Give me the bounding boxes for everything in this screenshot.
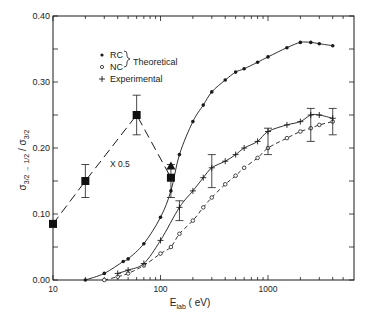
dot-marker [178, 153, 182, 157]
data-series [49, 41, 337, 282]
y-tick-label: 0.30 [32, 77, 50, 87]
dot-marker [299, 41, 303, 45]
legend: RCNCExperimentalTheoretical [99, 50, 178, 84]
series-open-circle [102, 120, 334, 282]
chart: 0.000.100.200.300.40101001000 RCNCExperi… [0, 0, 369, 321]
dot-marker [126, 257, 130, 261]
x-tick-label: 1000 [259, 284, 278, 294]
line-long-dash [53, 115, 171, 224]
open-circle-marker [159, 252, 163, 256]
dot-marker [234, 70, 238, 74]
dot-marker [102, 272, 106, 276]
axis-ticks [53, 16, 354, 280]
legend-dot-icon [100, 53, 103, 56]
open-circle-marker [210, 196, 214, 200]
y-axis-label: σ3/2 → 1/2 / σ3/2 [17, 130, 30, 191]
legend-label: NC [110, 62, 123, 72]
open-circle-marker [223, 183, 227, 187]
dot-marker [223, 78, 227, 82]
square-marker [167, 174, 175, 182]
dot-marker [331, 44, 335, 48]
dot-marker [159, 216, 163, 220]
axis-tick-labels: 0.000.100.200.300.40101001000 [32, 11, 277, 294]
triangle-marker [166, 161, 175, 169]
dot-marker [266, 55, 270, 59]
dot-marker [285, 46, 289, 50]
dot-marker [309, 41, 313, 45]
y-tick-label: 0.20 [32, 143, 50, 153]
open-circle-marker [285, 136, 289, 140]
y-tick-label: 0.40 [32, 11, 50, 21]
x-axis-label: Elab ( eV) [170, 297, 210, 310]
square-marker [133, 111, 141, 119]
open-circle-marker [234, 174, 238, 178]
legend-brace [124, 51, 130, 67]
dot-marker [210, 90, 214, 94]
dot-marker [191, 120, 195, 124]
x-tick-label: 100 [153, 284, 167, 294]
series-plus [115, 108, 337, 276]
annotations: X 0.5 [110, 159, 130, 169]
square-marker [49, 220, 57, 228]
curve-dashed [104, 122, 332, 280]
dot-marker [317, 42, 321, 46]
x-tick-label: 10 [48, 284, 58, 294]
scale-annotation: X 0.5 [110, 159, 130, 169]
dot-marker [256, 60, 260, 64]
open-circle-marker [191, 219, 195, 223]
dot-marker [142, 242, 146, 246]
dot-marker [242, 67, 246, 71]
plot-border [53, 16, 354, 280]
open-circle-marker [256, 156, 260, 160]
legend-circle-icon [100, 65, 103, 68]
dot-marker [121, 260, 125, 264]
y-tick-label: 0.10 [32, 209, 50, 219]
open-circle-marker [102, 278, 106, 282]
open-circle-marker [178, 232, 182, 236]
legend-label: RC [110, 50, 123, 60]
legend-label: Experimental [110, 74, 163, 84]
plot-frame [53, 16, 354, 280]
open-circle-marker [299, 130, 303, 134]
curve [118, 114, 333, 273]
open-circle-marker [317, 123, 321, 127]
dot-marker [84, 278, 88, 282]
series-filled-triangle [166, 161, 175, 169]
open-circle-marker [201, 206, 205, 210]
dot-marker [201, 103, 205, 107]
open-circle-marker [169, 245, 173, 249]
square-marker [81, 177, 89, 185]
open-circle-marker [242, 166, 246, 170]
legend-group-label: Theoretical [133, 57, 178, 67]
